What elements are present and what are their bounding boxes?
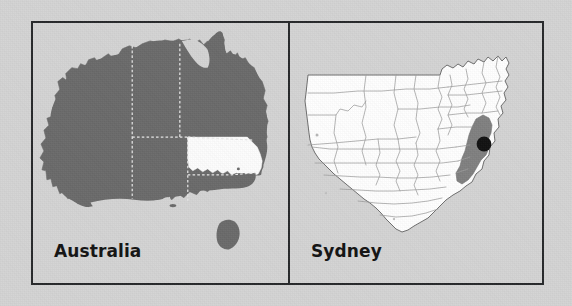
tasmania-shape	[217, 220, 240, 250]
nsw-interior-speck-b	[325, 192, 327, 194]
figure-root: Australia	[0, 0, 572, 306]
panel-label-sydney: Sydney	[311, 241, 382, 261]
map-frame: Australia	[31, 21, 544, 285]
panel-australia[interactable]: Australia	[33, 23, 290, 283]
nsw-interior-speck-a	[316, 134, 319, 137]
kangaroo-island	[170, 204, 177, 207]
act-speck	[237, 167, 240, 170]
panel-label-australia: Australia	[54, 241, 141, 261]
sydney-marker-dot[interactable]	[477, 137, 492, 152]
nsw-interior-speck-c	[393, 218, 395, 220]
west-coast-speck	[48, 126, 50, 128]
victoria-region	[188, 173, 256, 191]
panel-sydney[interactable]: Sydney	[290, 23, 542, 283]
